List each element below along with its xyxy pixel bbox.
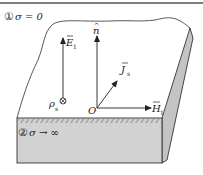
normal-label: n [93, 25, 99, 36]
region1-label: σ = 0 [15, 11, 44, 22]
e-field-subscript: 1 [73, 43, 77, 50]
region2-label: σ → ∞ [29, 127, 59, 138]
conductor-side-face [162, 28, 193, 163]
current-density-arrow [97, 81, 117, 108]
conductor-front-face [17, 118, 162, 163]
region2-number: ② [18, 126, 28, 139]
h-field-subscript: 1 [160, 109, 164, 116]
charge-subscript: s [55, 105, 58, 112]
region1-number: ① [4, 10, 14, 23]
boundary-diagram: ① σ = 0 ② σ → ∞ E 1 ^ n J s H 1 O ρ s [0, 0, 203, 175]
current-density-subscript: s [127, 70, 130, 77]
surface-outline [17, 18, 190, 118]
origin-label: O [88, 105, 96, 116]
charge-symbol: ρ [48, 98, 55, 109]
current-density-label: J [119, 64, 126, 75]
into-page-marker-icon [60, 98, 66, 104]
interface-hatch [17, 118, 162, 123]
